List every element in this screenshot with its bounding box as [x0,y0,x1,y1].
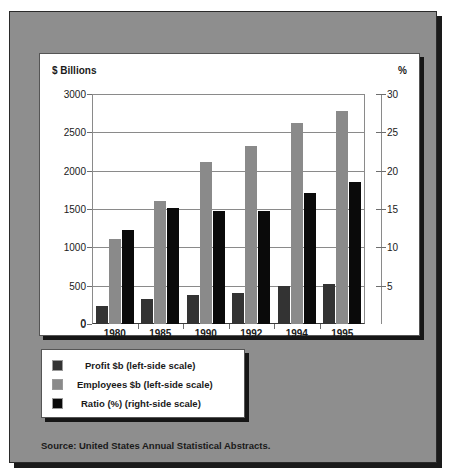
left-axis-tick-label: 2500 [64,127,86,138]
right-axis-tick-mark [376,286,386,287]
x-axis-labels: 198019851990199219941995 [92,328,365,339]
bar-group [138,94,184,324]
bar-group [320,94,366,324]
left-axis-unit-label: $ Billions [52,65,96,76]
left-axis-tick-label: 2000 [64,165,86,176]
chart-legend: Profit $b (left-side scale) Employees $b… [41,349,245,418]
bar-profit [323,284,335,324]
bar-employees [336,111,348,324]
chart-figure: $ Billions % 0 300025002000150010005000 … [0,0,451,476]
x-axis-tick-label: 1980 [92,328,138,339]
bar-ratio [258,211,270,324]
right-axis-tick-label: 30 [387,89,398,100]
legend-swatch-ratio [52,398,63,409]
right-axis-tick-label: 25 [387,127,398,138]
right-axis-tick-mark [376,132,386,133]
bar-profit [278,286,290,324]
legend-swatch-profit [52,360,63,371]
legend-label-employees: Employees $b (left-side scale) [77,379,213,390]
right-axis-line [381,94,382,324]
bar-ratio [213,211,225,324]
bar-employees [245,146,257,324]
left-axis-tick-label: 500 [69,280,86,291]
left-axis-tick-label: 1500 [64,204,86,215]
figure-card: $ Billions % 0 300025002000150010005000 … [9,11,437,463]
bar-employees [154,201,166,324]
bar-employees [291,123,303,324]
right-axis-tick-label: 10 [387,242,398,253]
legend-swatch-employees [52,379,63,390]
source-note: Source: United States Annual Statistical… [41,440,270,451]
right-axis-unit-label: % [398,65,407,76]
left-axis-tick-label: 0 [80,319,86,330]
legend-label-ratio: Ratio (%) (right-side scale) [81,398,201,409]
legend-item-ratio: Ratio (%) (right-side scale) [42,394,244,413]
right-axis-tick-label: 5 [387,280,393,291]
bar-group [92,94,138,324]
x-axis-tick-label: 1992 [229,328,275,339]
bar-employees [200,162,212,324]
legend-label-profit: Profit $b (left-side scale) [85,360,195,371]
bar-ratio [122,230,134,324]
right-axis-tick-mark [376,209,386,210]
right-axis-tick-mark [376,247,386,248]
right-axis-tick-mark [376,171,386,172]
bar-profit [187,295,199,324]
plot-area: 300025002000150010005000 30252015105 [92,94,365,324]
bar-ratio [304,193,316,324]
bar-ratio [349,182,361,324]
bar-group [183,94,229,324]
plot-panel: $ Billions % 0 300025002000150010005000 … [39,53,420,336]
x-axis-tick-label: 1994 [274,328,320,339]
right-axis-tick-mark [376,94,386,95]
bar-ratio [167,208,179,324]
bar-group [229,94,275,324]
right-axis-tick-label: 15 [387,204,398,215]
left-axis-tick-label: 3000 [64,89,86,100]
bar-employees [109,239,121,324]
legend-item-employees: Employees $b (left-side scale) [42,375,244,394]
right-axis-tick-label: 20 [387,165,398,176]
x-axis-tick-label: 1990 [183,328,229,339]
bar-group [274,94,320,324]
x-axis-tick-label: 1985 [138,328,184,339]
bar-profit [232,293,244,324]
left-axis-tick-label: 1000 [64,242,86,253]
x-axis-tick-label: 1995 [320,328,366,339]
bar-groups [92,94,365,324]
bar-profit [141,299,153,324]
legend-item-profit: Profit $b (left-side scale) [42,356,244,375]
bar-profit [96,306,108,324]
left-axis-tick-mark [87,324,92,325]
